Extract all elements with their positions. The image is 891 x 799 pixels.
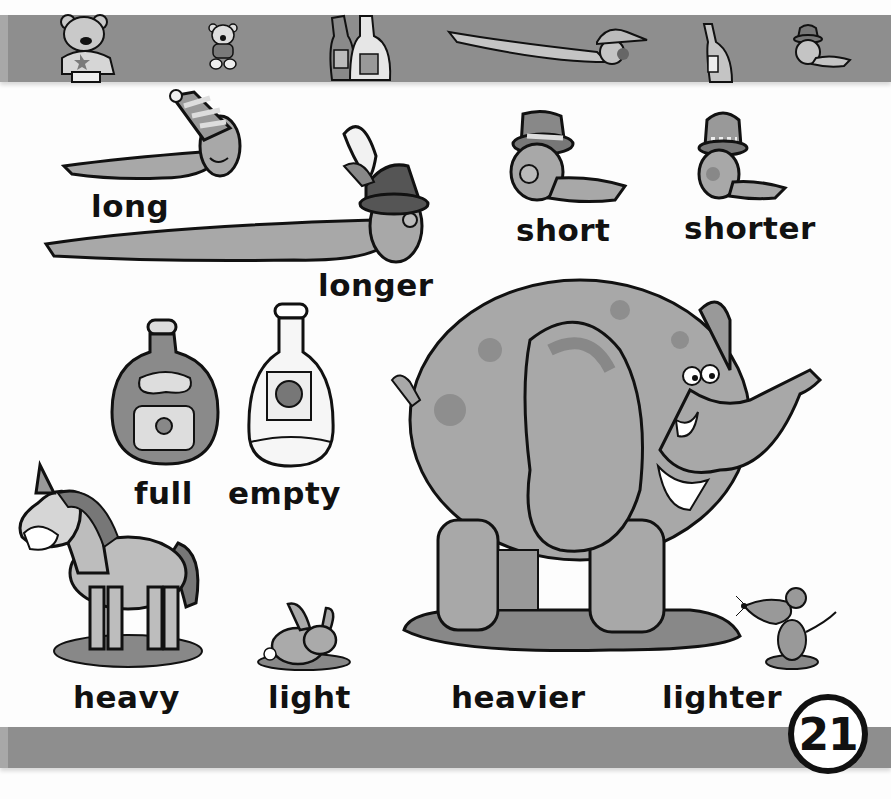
worm-cap-icon [447,22,647,66]
bottles-icon [326,14,398,82]
mouse-picture [736,582,840,672]
word-light: light [268,682,351,713]
bear-big-icon [58,14,122,82]
word-lighter: lighter [662,682,782,713]
bottom-decorative-band [0,727,891,768]
worm-feather-hat-picture [44,116,424,266]
bear-small-icon [207,22,239,72]
band-edge [0,15,8,82]
rabbit-picture [258,600,352,672]
worm-hat-icon [792,24,854,68]
horse-picture [18,463,204,673]
word-short: short [516,215,610,246]
page-number-badge: 21 [788,694,868,774]
word-shorter: shorter [684,213,816,244]
empty-bottle-picture [245,302,337,468]
word-heavy: heavy [73,682,180,713]
worm-top-hat-picture [503,110,629,204]
bottle-icon [702,22,738,82]
top-decorative-band [0,15,891,82]
word-heavier: heavier [451,682,586,713]
word-empty: empty [228,478,341,509]
full-bottle-picture [110,318,222,468]
worm-striped-top-hat-picture [693,110,793,202]
band-edge [0,727,8,768]
